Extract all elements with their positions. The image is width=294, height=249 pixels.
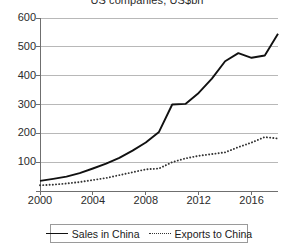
solid-line-swatch-icon — [46, 233, 68, 234]
x-axis-labels: 20002004200820122016 — [0, 194, 294, 210]
x-tick-label: 2016 — [239, 194, 263, 206]
x-tick-label: 2000 — [28, 194, 52, 206]
chart-legend: Sales in China Exports to China — [50, 224, 248, 243]
x-tick-label: 2004 — [81, 194, 105, 206]
y-tick-label: 100 — [2, 156, 36, 167]
x-tick-label: 2008 — [134, 194, 158, 206]
legend-label-sales-in-china: Sales in China — [72, 228, 140, 240]
y-tick-label: 400 — [2, 70, 36, 81]
legend-item-sales-in-china: Sales in China — [46, 228, 140, 240]
legend-item-exports-to-china: Exports to China — [149, 228, 253, 240]
dotted-line-swatch-icon — [149, 233, 171, 234]
legend-label-exports-to-china: Exports to China — [175, 228, 253, 240]
y-tick-label: 300 — [2, 99, 36, 110]
x-tick-label: 2012 — [186, 194, 210, 206]
y-tick-label: 500 — [2, 41, 36, 52]
line-chart: US companies, US$bn 100200300400500600 2… — [0, 0, 294, 249]
y-tick-label: 200 — [2, 127, 36, 138]
plot-area — [0, 0, 294, 249]
y-tick-label: 600 — [2, 12, 36, 23]
gridlines — [40, 18, 278, 162]
y-axis-ticks — [36, 18, 40, 191]
y-axis-labels: 100200300400500600 — [0, 0, 36, 200]
